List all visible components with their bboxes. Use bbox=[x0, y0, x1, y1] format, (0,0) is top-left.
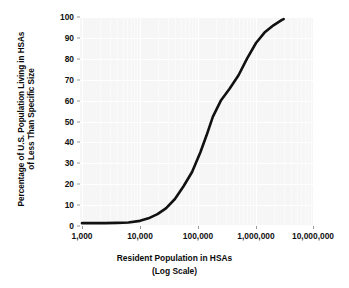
y-tick-label: 10 bbox=[44, 201, 74, 210]
y-tick-label: 60 bbox=[44, 96, 74, 105]
x-tick-label: 1,000,000 bbox=[237, 231, 274, 241]
y-tick-label: 40 bbox=[44, 138, 74, 147]
x-tick-label: 1,000 bbox=[72, 231, 93, 241]
x-axis-title-line-1: Resident Population in HSAs bbox=[0, 252, 349, 265]
series-line bbox=[82, 19, 284, 223]
x-tick-mark bbox=[82, 226, 83, 229]
plot-area bbox=[80, 17, 314, 226]
x-tick-label: 10,000 bbox=[127, 231, 153, 241]
y-tick-label: 50 bbox=[44, 117, 74, 126]
x-axis-title: Resident Population in HSAs (Log Scale) bbox=[0, 252, 349, 278]
x-tick-mark bbox=[313, 226, 314, 229]
y-tick-label: 90 bbox=[44, 33, 74, 42]
x-tick-label: 100,000 bbox=[183, 231, 213, 241]
y-tick-label: 20 bbox=[44, 180, 74, 189]
y-axis-tick-labels: 100 90 80 70 60 50 40 30 20 10 0 bbox=[44, 0, 74, 288]
y-tick-label: 30 bbox=[44, 159, 74, 168]
x-axis-title-line-2: (Log Scale) bbox=[0, 265, 349, 278]
y-axis-title-line-1: Percentage of U.S. Population Living in … bbox=[17, 32, 28, 207]
x-tick-mark bbox=[256, 226, 257, 229]
y-tick-label: 100 bbox=[44, 13, 74, 22]
y-tick-label: 0 bbox=[44, 222, 74, 231]
x-tick-mark bbox=[198, 226, 199, 229]
x-tick-mark bbox=[140, 226, 141, 229]
y-tick-label: 70 bbox=[44, 75, 74, 84]
cumulative-distribution-curve bbox=[80, 17, 314, 226]
x-tick-label: 10,000,000 bbox=[292, 231, 334, 241]
y-axis-title: Percentage of U.S. Population Living in … bbox=[12, 4, 42, 234]
chart-figure: Percentage of U.S. Population Living in … bbox=[0, 0, 349, 288]
y-axis-title-line-2: of Less Than Specific Size bbox=[27, 68, 38, 170]
y-tick-label: 80 bbox=[44, 54, 74, 63]
x-axis-tick-labels: 1,000 10,000 100,000 1,000,000 10,000,00… bbox=[0, 231, 349, 243]
